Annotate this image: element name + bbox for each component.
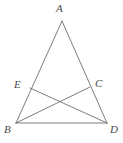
vertex-label-a: A: [56, 3, 63, 14]
geometry-figure: A E C B D: [0, 0, 123, 143]
vertex-label-e: E: [14, 79, 21, 90]
segment-ad: [62, 21, 107, 123]
vertex-label-d: D: [110, 124, 118, 135]
vertex-label-b: B: [4, 124, 11, 135]
segment-ab: [16, 21, 62, 123]
segment-ed: [30, 88, 107, 123]
segment-cb: [16, 87, 90, 123]
vertex-label-c: C: [95, 78, 102, 89]
figure-canvas: [0, 0, 123, 143]
